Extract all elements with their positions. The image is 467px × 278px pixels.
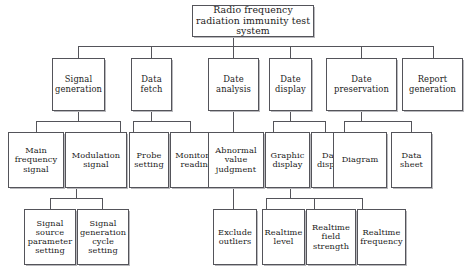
node-signal-source-parameter-setting-label: Signal source parameter setting	[25, 219, 75, 256]
node-data-fetch[interactable]: Data fetch	[131, 58, 172, 111]
connector-signal-generation-drop	[78, 111, 79, 121]
node-diagram-label: Diagram	[340, 155, 381, 164]
connector-to-signal-generation	[78, 46, 79, 58]
node-probe-setting[interactable]: Probe setting	[129, 132, 169, 188]
connector-to-realtime-frequency	[362, 198, 363, 209]
node-realtime-field-strength-label: Realtime field strength	[307, 223, 355, 251]
connector-to-abnormal-value-judgment	[233, 111, 234, 132]
connector-to-probe-setting	[133, 121, 134, 132]
node-data-sheet-label: Data sheet	[392, 151, 431, 169]
node-report-generation-label: Report generation	[403, 75, 462, 94]
connector-to-date-preservation	[361, 46, 362, 58]
connector-to-main-frequency-signal	[36, 121, 37, 132]
connector-to-signal-generation-cycle-setting	[102, 198, 103, 209]
connector-date-preservation-bus	[344, 121, 411, 122]
connector-signal-children-bus	[50, 198, 102, 199]
node-diagram[interactable]: Diagram	[333, 132, 387, 188]
node-root[interactable]: Radio frequency radiation immunity test …	[192, 5, 314, 37]
node-graphic-display[interactable]: Graphic display	[265, 132, 310, 188]
connector-to-graphic-display	[273, 121, 274, 132]
node-data-fetch-label: Data fetch	[132, 75, 171, 94]
node-main-frequency-signal[interactable]: Main frequency signal	[8, 132, 64, 188]
node-realtime-level[interactable]: Realtime level	[262, 209, 305, 265]
connector-signal-children-drop	[76, 188, 77, 198]
node-root-label: Radio frequency radiation immunity test …	[193, 5, 313, 37]
connector-level2-bus	[78, 46, 433, 47]
connector-to-data-fetch	[151, 46, 152, 58]
node-abnormal-value-judgment[interactable]: Abnormal value judgment	[208, 132, 264, 188]
connector-to-report-generation	[433, 46, 434, 58]
node-date-preservation-label: Date preservation	[327, 75, 396, 94]
connector-graphic-display-drop	[290, 188, 291, 198]
node-date-display-label: Date display	[270, 75, 311, 94]
connector-to-diagram	[344, 121, 345, 132]
connector-to-modulation-signal	[120, 121, 121, 132]
node-date-analysis-label: Date analysis	[209, 75, 258, 94]
node-exclude-outliers-label: Exclude outliers	[214, 228, 256, 246]
node-abnormal-value-judgment-label: Abnormal value judgment	[209, 146, 263, 174]
node-signal-generation[interactable]: Signal generation	[52, 58, 105, 111]
node-signal-generation-label: Signal generation	[53, 75, 104, 94]
node-main-frequency-signal-label: Main frequency signal	[9, 146, 63, 174]
connector-to-date-analysis	[233, 46, 234, 58]
node-modulation-signal-label: Modulation signal	[66, 151, 126, 169]
connector-date-preservation-drop	[361, 111, 362, 121]
node-date-preservation[interactable]: Date preservation	[326, 58, 397, 111]
node-realtime-field-strength[interactable]: Realtime field strength	[306, 209, 356, 265]
connector-to-realtime-level	[266, 198, 267, 209]
connector-to-data-display	[325, 121, 326, 132]
connector-data-fetch-drop	[151, 111, 152, 121]
node-graphic-display-label: Graphic display	[266, 151, 309, 169]
node-signal-generation-cycle-setting-label: Signal generation cycle setting	[78, 219, 128, 256]
system-architecture-diagram: Radio frequency radiation immunity test …	[0, 0, 467, 278]
node-signal-generation-cycle-setting[interactable]: Signal generation cycle setting	[77, 209, 129, 265]
connector-date-display-bus	[273, 121, 325, 122]
connector-data-fetch-bus	[133, 121, 190, 122]
connector-to-signal-source-parameter-setting	[50, 198, 51, 209]
connector-date-display-drop	[290, 111, 291, 121]
connector-to-date-display	[290, 46, 291, 58]
connector-signal-generation-bus	[36, 121, 120, 122]
node-data-sheet[interactable]: Data sheet	[391, 132, 432, 188]
node-modulation-signal[interactable]: Modulation signal	[65, 132, 127, 188]
node-realtime-frequency[interactable]: Realtime frequency	[357, 209, 406, 265]
node-date-display[interactable]: Date display	[269, 58, 312, 111]
node-realtime-frequency-label: Realtime frequency	[358, 228, 405, 246]
connector-to-realtime-field-strength	[314, 198, 315, 209]
node-date-analysis[interactable]: Date analysis	[208, 58, 259, 111]
node-signal-source-parameter-setting[interactable]: Signal source parameter setting	[24, 209, 76, 265]
connector-to-data-sheet	[411, 121, 412, 132]
connector-to-exclude-outliers	[233, 188, 234, 209]
connector-to-monitoring-readings	[190, 121, 191, 132]
node-realtime-level-label: Realtime level	[263, 228, 305, 246]
node-report-generation[interactable]: Report generation	[402, 58, 463, 111]
node-exclude-outliers[interactable]: Exclude outliers	[213, 209, 257, 265]
node-probe-setting-label: Probe setting	[130, 151, 168, 169]
